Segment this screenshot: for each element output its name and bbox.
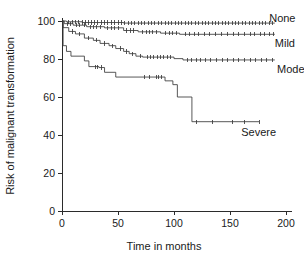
series-label-none: None [269,12,295,24]
y-axis-title: Risk of malignant transformation [4,37,16,195]
y-axis-group: 020406080100 [37,15,62,217]
km-survival-chart: 020406080100 050100150200 NoneMildModera… [0,0,304,257]
x-axis-group: 050100150200 [59,211,295,229]
y-tick-label: 100 [37,15,55,27]
x-tick-label: 200 [277,217,295,229]
y-tick-group: 020406080100 [37,15,62,217]
x-tick-label: 100 [165,217,183,229]
x-tick-label: 0 [59,217,65,229]
series-label-mild: Mild [275,37,295,49]
y-tick-label: 20 [43,167,55,179]
y-tick-label: 40 [43,129,55,141]
survival-curve-none [62,20,275,26]
survival-curves-group [62,20,275,124]
series-label-group: NoneMildModerateSevere [241,12,304,138]
x-tick-label: 50 [112,217,124,229]
y-tick-label: 0 [49,205,55,217]
y-tick-label: 60 [43,91,55,103]
chart-canvas: 020406080100 050100150200 NoneMildModera… [0,0,304,257]
curve-path [62,21,259,122]
x-tick-group: 050100150200 [59,211,295,229]
x-axis-title: Time in months [127,240,202,252]
x-tick-label: 150 [221,217,239,229]
series-label-severe: Severe [241,126,276,138]
series-label-moderate: Moderate [277,63,304,75]
survival-curve-severe [62,21,259,124]
survival-curve-moderate [62,21,275,62]
y-tick-label: 80 [43,53,55,65]
